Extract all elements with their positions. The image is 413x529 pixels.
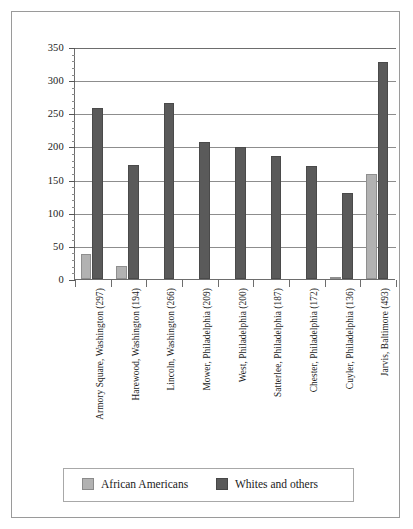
plot-area — [74, 48, 395, 280]
legend-label: African Americans — [101, 478, 188, 490]
legend-swatch-aa — [82, 478, 94, 490]
legend-item: Whites and others — [216, 478, 318, 490]
x-tick — [396, 280, 397, 287]
x-axis-label: Cuyler, Philadelphia (136) — [346, 288, 355, 389]
x-tick — [253, 280, 254, 287]
y-axis-label-0: 0 — [59, 275, 64, 285]
x-tick — [75, 280, 76, 287]
x-tick — [182, 280, 183, 287]
bar-cluster — [111, 47, 147, 279]
legend-swatch-wo — [216, 478, 228, 490]
y-axis-label-100: 100 — [48, 209, 64, 219]
x-tick — [325, 280, 326, 287]
chart-legend: African AmericansWhites and others — [63, 468, 354, 502]
legend-item: African Americans — [82, 478, 188, 490]
x-tick — [146, 280, 147, 287]
x-axis-label: Harewood, Washington (194) — [132, 288, 141, 400]
bar-whites-and-others — [378, 62, 389, 279]
bar-cluster — [75, 47, 111, 279]
x-tick — [218, 280, 219, 287]
bar-cluster — [218, 47, 254, 279]
x-axis-labels: Armory Square, Washington (297)Harewood,… — [74, 288, 395, 428]
x-tick — [111, 280, 112, 287]
y-axis-label-150: 150 — [48, 176, 64, 186]
y-axis-label-50: 50 — [53, 242, 64, 252]
bar-cluster — [182, 47, 218, 279]
x-tick — [360, 280, 361, 287]
bar-cluster — [360, 47, 396, 279]
bar-whites-and-others — [199, 142, 210, 279]
x-axis-label: Jarvis, Baltimore (493) — [381, 288, 390, 376]
legend-label: Whites and others — [235, 478, 318, 490]
bar-cluster — [325, 47, 361, 279]
x-axis-label: Lincoln, Washington (266) — [167, 288, 176, 391]
bar-whites-and-others — [128, 165, 139, 279]
bar-whites-and-others — [164, 103, 175, 279]
bar-african-americans — [81, 254, 92, 279]
x-axis-label: Armory Square, Washington (297) — [96, 288, 105, 420]
bar-african-americans — [116, 266, 127, 279]
bar-cluster — [289, 47, 325, 279]
bar-whites-and-others — [235, 147, 246, 279]
bar-whites-and-others — [92, 108, 103, 279]
y-axis-label-250: 250 — [48, 109, 64, 119]
bar-cluster — [253, 47, 289, 279]
bar-whites-and-others — [271, 156, 282, 279]
bar-cluster — [146, 47, 182, 279]
bar-african-americans — [366, 174, 377, 279]
y-axis-label-300: 300 — [48, 76, 64, 86]
bar-whites-and-others — [342, 193, 353, 279]
bar-whites-and-others — [306, 166, 317, 279]
x-axis-label: Chester, Philadelphia (172) — [310, 288, 319, 392]
y-axis-label-200: 200 — [48, 142, 64, 152]
x-axis-label: Satterlee, Philadelphia (187) — [274, 288, 283, 397]
x-axis-label: Mower, Philadelphia (209) — [203, 288, 212, 391]
chart-figure: 050100150200250300350 Armory Square, Was… — [11, 11, 400, 518]
x-axis-label: West, Philadelphia (200) — [239, 288, 248, 382]
x-tick — [289, 280, 290, 287]
y-axis-label-350: 350 — [48, 43, 64, 53]
bar-african-americans — [330, 277, 341, 279]
